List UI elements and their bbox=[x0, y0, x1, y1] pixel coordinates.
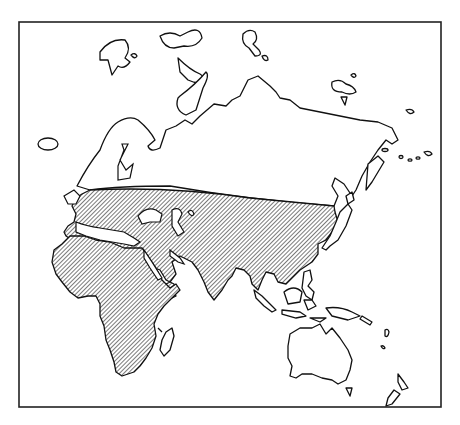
madagascar bbox=[160, 328, 174, 356]
philippines bbox=[302, 270, 314, 300]
iberia-britain-sea bbox=[64, 190, 80, 204]
australia bbox=[288, 324, 352, 384]
distribution-map bbox=[0, 0, 460, 425]
new-zealand bbox=[386, 374, 408, 406]
northern-eurasia bbox=[77, 76, 398, 206]
tasmania bbox=[346, 388, 352, 396]
